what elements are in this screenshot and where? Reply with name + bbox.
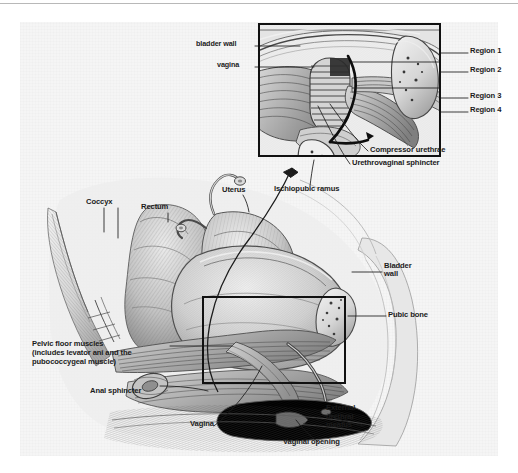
illustration-page: bladder wall vagina Region 1 Region 2 Re… — [0, 0, 518, 473]
pelvic-floor-line3: pubococcygeal muscle) — [32, 357, 116, 366]
label-region-2: Region 2 — [470, 66, 501, 75]
anatomy-artwork — [0, 0, 518, 473]
main-anatomy-drawing — [48, 168, 418, 452]
label-vagina-main: Vagina — [190, 420, 214, 429]
label-bladder-wall-inset: bladder wall — [196, 40, 236, 48]
label-bladder-wall-main: Bladder wall — [384, 262, 412, 279]
label-compressor-urethrae: Compressor urethrae — [370, 146, 445, 155]
label-uterus: Uterus — [222, 186, 245, 195]
label-external-urethral-meatus: External urethral meatus — [326, 404, 355, 430]
label-rectum: Rectum — [141, 203, 168, 212]
label-bladder-wall-line2: wall — [384, 269, 398, 278]
label-pubic-bone: Pubic bone — [388, 311, 428, 320]
label-coccyx: Coccyx — [86, 198, 112, 207]
label-region-1: Region 1 — [470, 47, 501, 56]
label-anal-sphincter: Anal sphincter — [90, 387, 141, 396]
label-pelvic-floor-muscles: Pelvic floor muscles (includes levator a… — [32, 340, 172, 367]
label-region-3: Region 3 — [470, 92, 501, 101]
meatus-line3: meatus — [326, 420, 352, 429]
label-vagina-inset: vagina — [217, 61, 239, 69]
label-ischiopubic-ramus: Ischiopubic ramus — [274, 185, 339, 194]
label-urethrovaginal-sphincter: Urethrovaginal sphincter — [352, 159, 439, 168]
label-region-4: Region 4 — [470, 106, 501, 115]
label-vaginal-opening: Vaginal opening — [283, 438, 340, 447]
pelvic-floor-line2: (includes levator ani and the — [32, 348, 132, 357]
pelvic-floor-line1: Pelvic floor muscles — [32, 339, 103, 348]
